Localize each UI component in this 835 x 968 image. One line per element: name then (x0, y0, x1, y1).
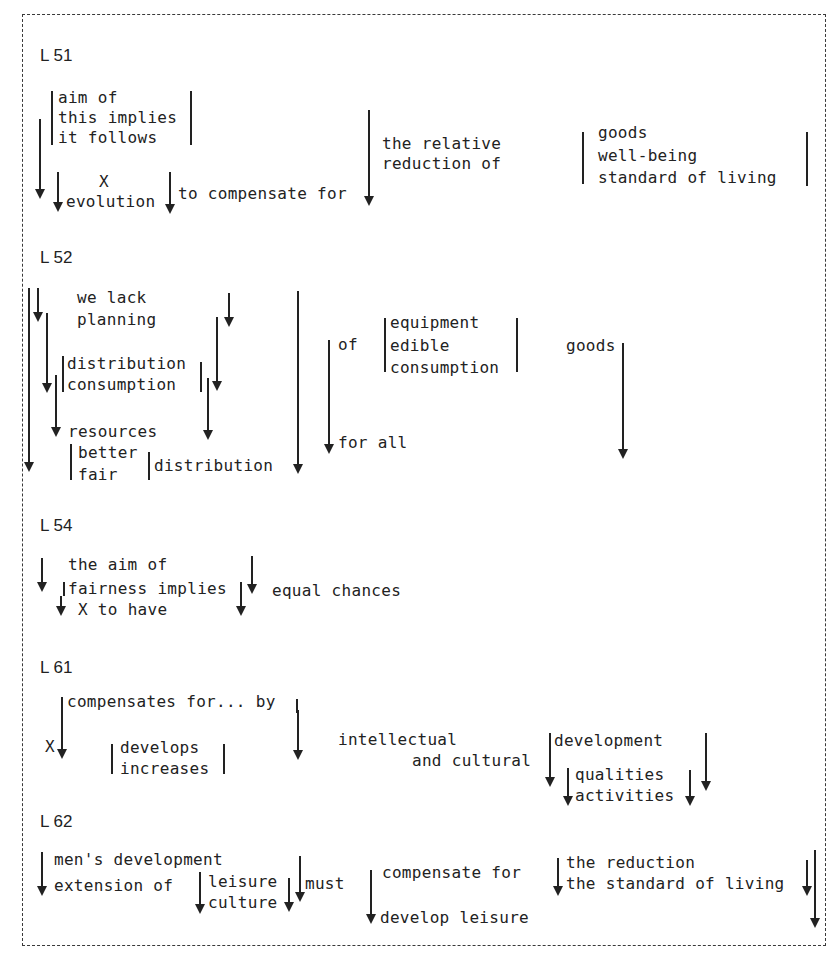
lack-text: we lack (77, 288, 147, 307)
aim-text: the aim of (68, 555, 167, 574)
x-text: X (45, 737, 55, 756)
arrow-down-icon (37, 558, 47, 592)
bracket-bar (111, 744, 113, 774)
bracket-bar (806, 132, 808, 186)
arrow-down-icon (553, 858, 563, 896)
development-text: development (554, 731, 663, 750)
x-text: X (99, 172, 109, 191)
reduction-text: the standard of living (566, 874, 785, 893)
bracket-bar (62, 356, 64, 392)
arrow-down-icon (212, 317, 222, 391)
bracket-bar (223, 744, 225, 774)
alt-text: this implies (58, 108, 177, 127)
arrow-down-icon (236, 596, 246, 616)
arrow-down-icon (563, 768, 573, 806)
distribution-text: distribution (154, 456, 273, 475)
arrow-down-icon (324, 340, 334, 454)
goods-text: well-being (598, 146, 697, 165)
intellectual-text: and cultural (412, 751, 531, 770)
goods-text: goods (598, 123, 648, 142)
compensates-text: compensates for... by (67, 692, 276, 711)
equip-text: edible (390, 336, 450, 355)
bracket-bar (63, 582, 65, 596)
equal-text: equal chances (272, 581, 401, 600)
bracket-bar (240, 582, 242, 596)
arrow-down-icon (618, 343, 628, 459)
arrow-down-icon (56, 596, 66, 616)
arrow-down-icon (810, 850, 820, 928)
dev-text: develops (120, 738, 199, 757)
compensate-text: to compensate for (178, 184, 347, 203)
alt-text: it follows (58, 128, 157, 147)
arrow-down-icon (364, 110, 374, 206)
section-label-l61: L 61 (40, 658, 72, 678)
arrow-down-icon (53, 172, 63, 212)
dev-text: increases (120, 759, 209, 778)
bracket-bar (516, 318, 518, 372)
qual-text: activities (575, 786, 674, 805)
must-text: must (305, 874, 345, 893)
bracket-bar (148, 452, 150, 480)
aim-text: fairness implies (68, 579, 227, 598)
compensate-text: compensate for (382, 863, 521, 882)
arrow-down-icon (203, 378, 213, 440)
arrow-down-icon (247, 556, 257, 594)
arrow-down-icon (701, 733, 711, 791)
leisure-text: culture (208, 893, 278, 912)
bracket-bar (51, 91, 53, 145)
section-label-l51: L 51 (40, 46, 72, 66)
intellectual-text: intellectual (338, 730, 457, 749)
resources-text: resources (68, 422, 157, 441)
equip-text: consumption (390, 358, 499, 377)
evolution-text: evolution (66, 192, 155, 211)
equip-text: equipment (390, 313, 479, 332)
of-text: of (338, 335, 358, 354)
relative-text: the relative (382, 134, 501, 153)
arrow-down-icon (295, 856, 305, 902)
relative-text: reduction of (382, 154, 501, 173)
goods-text: goods (566, 336, 616, 355)
arrow-down-icon (51, 375, 61, 437)
arrow-down-icon (293, 291, 303, 474)
section-label-l54: L 54 (40, 516, 72, 536)
dist-text: distribution (67, 354, 186, 373)
bracket-bar (200, 362, 202, 392)
bracket-bar (190, 91, 192, 145)
fair-text: better (78, 443, 138, 462)
section-label-l62: L 62 (40, 812, 72, 832)
x-have-text: X to have (78, 600, 167, 619)
arrow-down-icon (195, 872, 205, 914)
goods-text: standard of living (598, 168, 777, 187)
qual-text: qualities (575, 765, 664, 784)
fair-text: fair (78, 465, 118, 484)
section-label-l52: L 52 (40, 248, 72, 268)
arrow-down-icon (293, 710, 303, 760)
bracket-bar (70, 444, 72, 480)
mens-text: men's development (54, 850, 223, 869)
arrow-down-icon (284, 878, 294, 912)
arrow-down-icon (57, 697, 67, 759)
arrow-down-icon (37, 852, 47, 896)
alt-text: aim of (58, 88, 118, 107)
extension-text: extension of (54, 876, 173, 895)
arrow-down-icon (165, 172, 175, 214)
arrow-down-icon (685, 770, 695, 806)
arrow-down-icon (366, 870, 376, 924)
for-all-text: for all (338, 433, 408, 452)
dist-text: consumption (67, 375, 176, 394)
reduction-text: the reduction (566, 853, 695, 872)
bracket-bar (582, 132, 584, 184)
lack-text: planning (77, 310, 156, 329)
leisure-text: leisure (208, 872, 278, 891)
develop-leisure-text: develop leisure (380, 908, 529, 927)
bracket-bar (384, 318, 386, 372)
arrow-down-icon (224, 293, 234, 327)
arrow-down-icon (35, 119, 45, 199)
